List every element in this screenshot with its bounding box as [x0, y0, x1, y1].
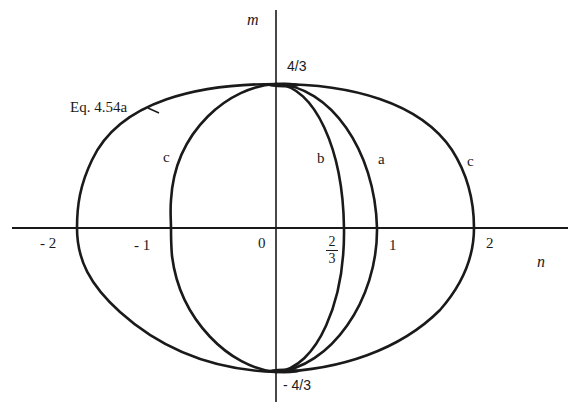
curve-label-eq: Eq. 4.54a — [70, 100, 127, 115]
x-axis-label: n — [537, 254, 545, 270]
x-tick-neg1: - 1 — [134, 238, 150, 253]
y-tick-bottom: - 4/3 — [283, 378, 311, 392]
junction-top — [268, 83, 300, 88]
x-tick-zero: 0 — [258, 236, 266, 251]
eq-leader-line — [148, 108, 159, 113]
y-tick-top: 4/3 — [287, 59, 306, 73]
x-tick-neg2: - 2 — [40, 236, 56, 251]
junction-bottom — [268, 369, 300, 374]
y-axis-label: m — [247, 12, 259, 28]
x-tick-two-thirds: 2 3 — [326, 235, 338, 266]
interaction-diagram: m n 4/3 - 4/3 - 2 - 1 0 2 3 1 2 Eq. 4.54… — [0, 0, 576, 408]
fraction-numerator: 2 — [326, 235, 338, 251]
curve-label-b: b — [317, 151, 325, 166]
curve-label-c-left: c — [163, 150, 170, 165]
x-tick-two: 2 — [486, 236, 494, 251]
curve-label-c-right: c — [467, 154, 474, 169]
fraction-denominator: 3 — [326, 251, 338, 266]
x-tick-one: 1 — [389, 238, 397, 253]
curve-label-a: a — [378, 152, 385, 167]
